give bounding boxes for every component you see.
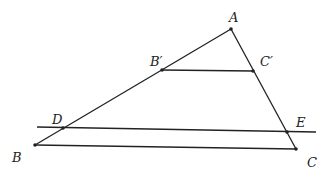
point-b — [33, 143, 37, 147]
triangle-diagram: A B C B′ C′ D E — [0, 0, 334, 174]
label-c: C — [307, 155, 317, 170]
label-c-prime: C′ — [260, 54, 273, 69]
segment-b-prime-c-prime — [162, 70, 253, 71]
point-c-prime — [251, 69, 255, 73]
label-e: E — [295, 115, 306, 130]
label-d: D — [51, 112, 63, 127]
line-de — [37, 127, 316, 132]
point-a — [229, 27, 233, 31]
label-b: B — [11, 150, 22, 165]
label-a: A — [228, 10, 238, 25]
segment-bc — [35, 145, 296, 149]
point-e — [285, 130, 289, 134]
point-c — [294, 147, 298, 151]
label-b-prime: B′ — [149, 54, 163, 69]
